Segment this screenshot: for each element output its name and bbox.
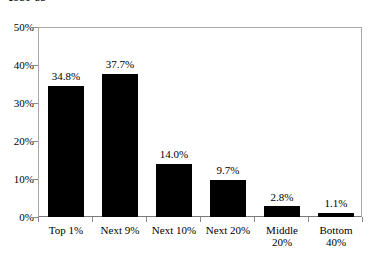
x-category-label-next-20: Next 20%: [200, 224, 256, 236]
y-tick-label-0: 0%: [0, 212, 34, 223]
y-tick-label-10: 10%: [0, 174, 34, 185]
x-category-label-next-9: Next 9%: [92, 224, 148, 236]
bar-value-bottom-40: 1.1%: [310, 198, 362, 209]
x-tick-mark-2: [146, 217, 147, 222]
bar-value-next-10: 14.0%: [148, 149, 200, 160]
bar-next-10: [156, 164, 192, 217]
bar-next-20: [210, 180, 246, 217]
x-tick-mark-0: [38, 217, 39, 222]
y-tick-label-30: 30%: [0, 98, 34, 109]
bar-top-1: [48, 86, 84, 217]
x-category-label-top-1: Top 1%: [38, 224, 94, 236]
x-tick-mark-5: [308, 217, 309, 222]
y-tick-label-20: 20%: [0, 136, 34, 147]
y-tick-label-40: 40%: [0, 60, 34, 71]
bar-chart-figure: 1986-88 50% 40% 30% 20% 10% 0% 34.8% 37.…: [0, 0, 386, 259]
bar-bottom-40: [318, 213, 354, 217]
x-tick-mark-3: [200, 217, 201, 222]
x-tick-mark-1: [92, 217, 93, 222]
x-tick-mark-6: [362, 217, 363, 222]
x-category-label-middle-20: Middle 20%: [254, 224, 310, 248]
bar-value-next-9: 37.7%: [94, 59, 146, 70]
y-tick-label-50: 50%: [0, 22, 34, 33]
bar-value-top-1: 34.8%: [40, 71, 92, 82]
bar-next-9: [102, 74, 138, 217]
x-tick-mark-4: [254, 217, 255, 222]
plot-area: [38, 27, 362, 217]
y-axis: 50% 40% 30% 20% 10% 0%: [0, 0, 34, 259]
bar-middle-20: [264, 206, 300, 217]
x-category-label-next-10: Next 10%: [146, 224, 202, 236]
x-category-label-bottom-40: Bottom 40%: [308, 224, 364, 248]
bar-value-next-20: 9.7%: [202, 165, 254, 176]
bar-value-middle-20: 2.8%: [256, 192, 308, 203]
